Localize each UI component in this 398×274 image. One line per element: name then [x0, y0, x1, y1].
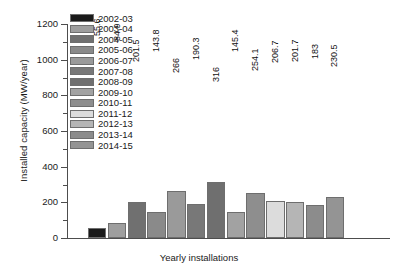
bar: [167, 191, 185, 238]
legend-item[interactable]: 2007-08: [70, 66, 133, 77]
legend-label: 2003-04: [98, 24, 133, 34]
legend-swatch: [70, 78, 94, 86]
bar: [266, 201, 284, 238]
bar: [187, 204, 205, 238]
y-tick-label: 600: [18, 126, 58, 136]
bar-value-label: 201.7: [291, 39, 300, 62]
legend-swatch: [70, 14, 94, 22]
legend-label: 2002-03: [98, 14, 133, 24]
legend-swatch: [70, 35, 94, 43]
chart-legend: 2002-032003-042004-052005-062006-072007-…: [70, 13, 133, 151]
legend-label: 2008-09: [98, 77, 133, 87]
legend-swatch: [70, 67, 94, 75]
legend-item[interactable]: 2003-04: [70, 24, 133, 35]
bar: [147, 212, 165, 238]
bar-value-label: 254.1: [251, 49, 260, 72]
x-axis-line: [67, 238, 390, 239]
legend-swatch: [70, 88, 94, 96]
legend-item[interactable]: 2008-09: [70, 77, 133, 88]
bar: [246, 193, 264, 238]
legend-swatch: [70, 46, 94, 54]
bar-value-label: 316: [212, 67, 221, 82]
legend-item[interactable]: 2002-03: [70, 13, 133, 24]
bar: [286, 202, 304, 238]
legend-swatch: [70, 131, 94, 139]
legend-label: 2009-10: [98, 88, 133, 98]
legend-swatch: [70, 99, 94, 107]
legend-item[interactable]: 2012-13: [70, 119, 133, 130]
legend-swatch: [70, 57, 94, 65]
y-tick-label: 0: [18, 233, 58, 243]
legend-label: 2005-06: [98, 45, 133, 55]
bar-value-label: 145.4: [231, 29, 240, 52]
y-tick-label: 800: [18, 90, 58, 100]
legend-swatch: [70, 141, 94, 149]
legend-label: 2011-12: [98, 109, 132, 119]
bar: [207, 182, 225, 238]
bar: [306, 205, 324, 238]
bar: [326, 197, 344, 238]
legend-label: 2013-14: [98, 130, 133, 140]
bar-value-label: 143.8: [152, 29, 161, 52]
legend-item[interactable]: 2014-15: [70, 140, 133, 151]
bar: [227, 212, 245, 238]
bar-value-label: 266: [172, 58, 181, 73]
legend-label: 2014-15: [98, 141, 133, 151]
legend-item[interactable]: 2011-12: [70, 108, 133, 119]
legend-label: 2004-05: [98, 35, 133, 45]
legend-swatch: [70, 110, 94, 118]
bar-value-label: 230.5: [330, 45, 339, 68]
bar-value-label: 183: [311, 44, 320, 59]
legend-label: 2007-08: [98, 67, 133, 77]
legend-item[interactable]: 2005-06: [70, 45, 133, 56]
legend-swatch: [70, 120, 94, 128]
bar-value-label: 201.5: [132, 39, 141, 62]
x-axis-title: Yearly installations: [0, 252, 398, 263]
y-tick-label: 1200: [18, 19, 58, 29]
legend-label: 2010-11: [98, 98, 132, 108]
bar-value-label: 190.3: [192, 37, 201, 60]
legend-item[interactable]: 2010-11: [70, 98, 133, 109]
bar-value-label: 206.7: [271, 40, 280, 63]
y-tick-label: 200: [18, 197, 58, 207]
bar: [88, 228, 106, 238]
legend-label: 2006-07: [98, 56, 133, 66]
legend-item[interactable]: 2006-07: [70, 55, 133, 66]
legend-item[interactable]: 2004-05: [70, 34, 133, 45]
legend-swatch: [70, 25, 94, 33]
legend-item[interactable]: 2013-14: [70, 130, 133, 141]
y-tick-label: 400: [18, 162, 58, 172]
y-tick-label: 1000: [18, 55, 58, 65]
bar-chart-figure: Installed capacity (MW/year) 02004006008…: [0, 0, 398, 274]
legend-label: 2012-13: [98, 119, 133, 129]
bar: [108, 223, 126, 238]
legend-item[interactable]: 2009-10: [70, 87, 133, 98]
bar: [128, 202, 146, 238]
